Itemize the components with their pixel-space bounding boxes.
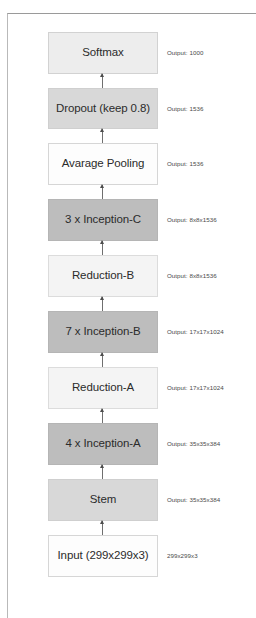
node-reduction-a[interactable]: Reduction-A	[48, 367, 158, 409]
arrow-stem-to-inception-a	[102, 465, 103, 479]
arrow-inception-b-to-reduction-b	[102, 297, 103, 311]
node-inception-b[interactable]: 7 x Inception-B	[48, 311, 158, 353]
node-reduction-b-label: Reduction-B	[72, 269, 134, 282]
arrow-reduction-b-to-inception-c	[102, 241, 103, 255]
node-reduction-a-label: Reduction-A	[72, 381, 134, 394]
annotation-inception-a: Output: 35x35x384	[167, 441, 220, 447]
arrow-reduction-a-to-inception-b	[102, 353, 103, 367]
diagram-canvas: Softmax Output: 1000 Dropout (keep 0.8) …	[0, 0, 256, 618]
node-dropout[interactable]: Dropout (keep 0.8)	[48, 88, 158, 129]
arrow-avg-pooling-to-dropout	[102, 129, 103, 143]
node-stem[interactable]: Stem	[48, 479, 158, 521]
node-avg-pooling[interactable]: Avarage Pooling	[48, 143, 158, 185]
annotation-softmax: Output: 1000	[167, 50, 203, 56]
annotation-dropout: Output: 1536	[167, 106, 203, 112]
annotation-reduction-a: Output: 17x17x1024	[167, 385, 224, 391]
annotation-reduction-b: Output: 8x8x1536	[167, 273, 217, 279]
node-avg-pooling-label: Avarage Pooling	[62, 157, 145, 170]
node-inception-b-label: 7 x Inception-B	[65, 325, 140, 338]
node-inception-a[interactable]: 4 x Inception-A	[48, 423, 158, 465]
arrow-inception-a-to-reduction-a	[102, 409, 103, 423]
node-input-label: Input (299x299x3)	[57, 549, 148, 562]
node-inception-a-label: 4 x Inception-A	[65, 437, 140, 450]
annotation-inception-b: Output: 17x17x1024	[167, 329, 224, 335]
node-stem-label: Stem	[90, 493, 116, 506]
annotation-stem: Output: 35x35x384	[167, 497, 220, 503]
arrow-inception-c-to-avg-pooling	[102, 185, 103, 199]
node-input[interactable]: Input (299x299x3)	[48, 535, 158, 577]
annotation-inception-c: Output: 8x8x1536	[167, 217, 217, 223]
node-reduction-b[interactable]: Reduction-B	[48, 255, 158, 297]
arrow-input-to-stem	[102, 521, 103, 535]
node-softmax-label: Softmax	[82, 46, 123, 59]
node-inception-c-label: 3 x Inception-C	[65, 213, 141, 226]
annotation-avg-pooling: Output: 1536	[167, 161, 203, 167]
node-inception-c[interactable]: 3 x Inception-C	[48, 199, 158, 241]
node-softmax[interactable]: Softmax	[48, 32, 158, 74]
annotation-input: 299x299x3	[167, 553, 198, 559]
node-dropout-label: Dropout (keep 0.8)	[56, 102, 150, 115]
arrow-dropout-to-softmax	[102, 74, 103, 88]
